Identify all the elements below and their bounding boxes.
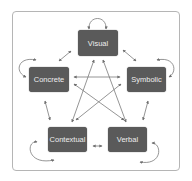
edge-visual-symbolic <box>123 50 136 61</box>
edge-symbolic-contextual <box>76 84 121 120</box>
node-label: Verbal <box>117 135 138 144</box>
node-label: Contextual <box>50 135 86 144</box>
node-contextual: Contextual <box>48 127 87 152</box>
node-concrete: Concrete <box>29 67 69 92</box>
node-label: Visual <box>88 39 108 48</box>
edge-symbolic-verbal <box>143 101 148 120</box>
edge-visual-contextual <box>72 60 94 122</box>
node-label: Concrete <box>34 75 64 84</box>
node-label: Symbolic <box>131 75 161 84</box>
node-symbolic: Symbolic <box>127 67 166 92</box>
node-visual: Visual <box>78 30 118 56</box>
edge-visual-concrete <box>59 51 71 61</box>
edge-concrete-contextual <box>45 101 50 120</box>
node-verbal: Verbal <box>108 127 147 152</box>
self-loop-visual <box>89 19 106 30</box>
